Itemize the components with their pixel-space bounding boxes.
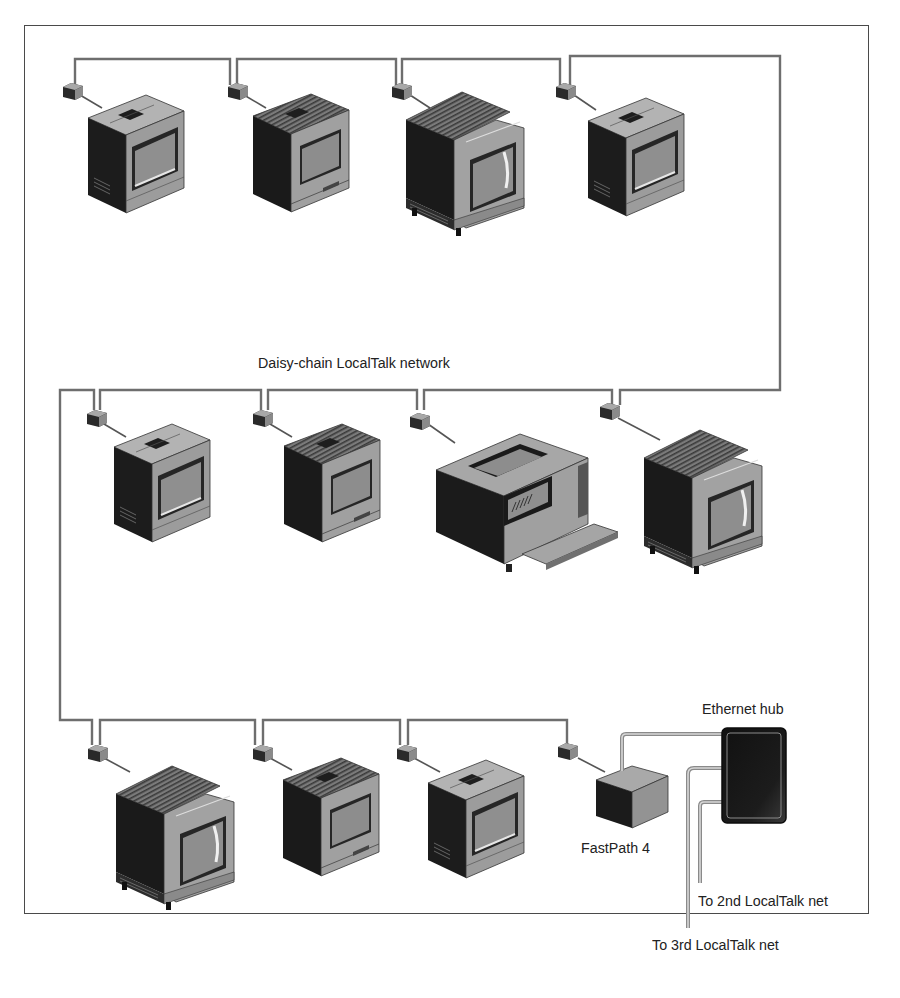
device-top-4-compact-mac <box>588 98 684 216</box>
third-localtalk-net-label: To 3rd LocalTalk net <box>652 936 779 954</box>
fastpath-router-box <box>596 766 668 828</box>
fastpath-label: FastPath 4 <box>581 839 650 857</box>
device-bot-1-large-monitor-mac <box>116 766 234 910</box>
network-label: Daisy-chain LocalTalk network <box>258 354 450 372</box>
second-localtalk-net-label: To 2nd LocalTalk net <box>698 892 828 910</box>
device-mid-2-classic-mac <box>284 424 380 542</box>
network-diagram: Daisy-chain LocalTalk network Ethernet h… <box>0 0 900 998</box>
diagram-canvas <box>0 0 900 998</box>
device-mid-3-laser-printer <box>436 434 618 572</box>
device-mid-1-compact-mac <box>114 424 210 542</box>
device-top-2-classic-mac <box>253 94 349 212</box>
ethernet-hub-label: Ethernet hub <box>702 700 784 718</box>
device-bot-3-compact-mac <box>428 760 524 878</box>
device-bot-2-classic-mac <box>283 758 379 876</box>
device-mid-4-large-monitor-mac <box>644 430 762 574</box>
device-top-1-compact-mac <box>88 95 184 213</box>
device-top-3-large-monitor-mac <box>406 92 524 236</box>
ethernet-hub <box>722 728 786 823</box>
